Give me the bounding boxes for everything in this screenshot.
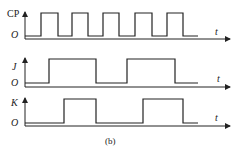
k-origin-label: O xyxy=(11,118,18,128)
cp-label: CP xyxy=(7,9,19,19)
j-origin-label: O xyxy=(11,78,18,88)
cp-axes xyxy=(25,12,230,39)
k-time-label: t xyxy=(215,113,218,123)
cp-waveform xyxy=(25,13,198,36)
j-label: J xyxy=(12,62,16,72)
k-axes xyxy=(25,98,230,126)
k-label: K xyxy=(11,98,18,108)
j-waveform xyxy=(25,59,198,83)
cp-origin-label: O xyxy=(11,30,18,40)
cp-time-label: t xyxy=(215,27,218,37)
timing-diagram xyxy=(0,0,234,147)
j-time-label: t xyxy=(217,74,220,84)
k-waveform xyxy=(25,99,198,123)
figure-caption: (b) xyxy=(105,136,116,146)
